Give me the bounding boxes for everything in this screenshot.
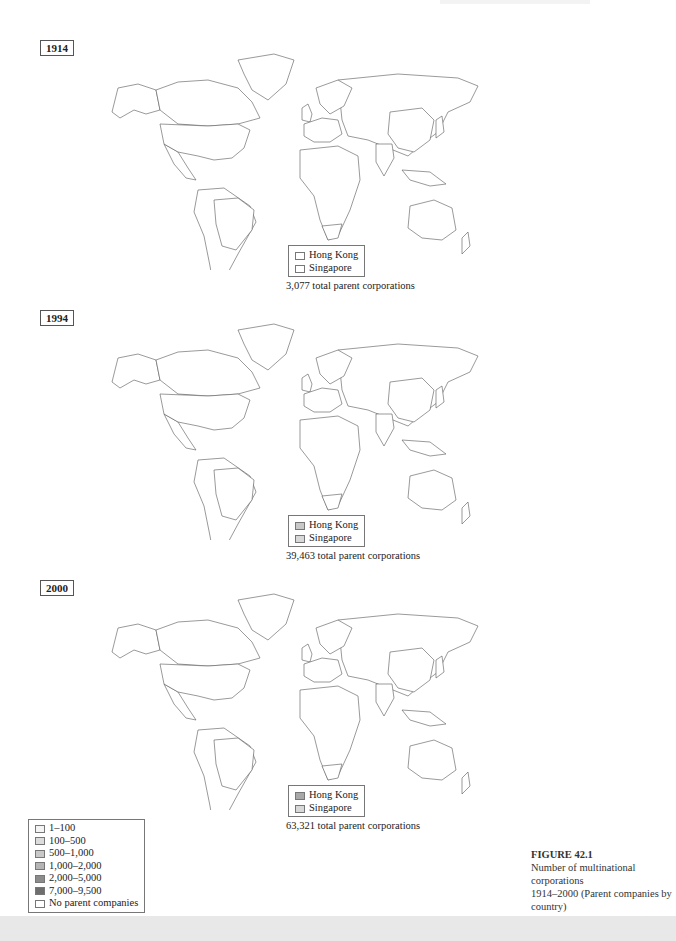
- scan-edge-bottom: [0, 916, 676, 941]
- year-label: 1914: [40, 40, 74, 56]
- total-corporations: 63,321 total parent corporations: [286, 820, 420, 831]
- legend-swatch: [35, 862, 45, 870]
- region-canada: [156, 620, 260, 666]
- region-nz: [462, 502, 470, 524]
- legend-item: 2,000–5,000: [35, 872, 138, 885]
- inset-item: Singapore: [295, 801, 358, 814]
- total-corporations: 39,463 total parent corporations: [286, 550, 420, 561]
- caption-line: Number of multinational corporations: [531, 861, 676, 887]
- region-australia: [408, 470, 456, 510]
- inset-swatch: [295, 252, 305, 260]
- region-alaska: [112, 84, 160, 118]
- region-nz: [462, 772, 470, 794]
- year-label: 2000: [40, 580, 74, 596]
- legend-item: 1–100: [35, 822, 138, 835]
- region-sea: [402, 170, 446, 186]
- region-india: [376, 684, 394, 716]
- city-inset-legend: Hong KongSingapore: [288, 785, 365, 817]
- region-southafrica: [322, 494, 342, 510]
- region-sea: [402, 440, 446, 456]
- region-canada: [156, 80, 260, 126]
- legend-swatch: [35, 837, 45, 845]
- inset-item: Hong Kong: [295, 248, 358, 261]
- region-greenland: [238, 54, 294, 100]
- year-label: 1994: [40, 310, 74, 326]
- legend-item: 100–500: [35, 835, 138, 848]
- map-panel-1914: 1914Hong KongSingapore3,077 total parent…: [28, 40, 468, 295]
- inset-swatch: [295, 522, 305, 530]
- legend-item: 7,000–9,500: [35, 885, 138, 898]
- inset-item: Hong Kong: [295, 518, 358, 531]
- inset-swatch: [295, 535, 305, 543]
- inset-swatch: [295, 265, 305, 273]
- legend-item: 500–1,000: [35, 847, 138, 860]
- region-sea: [402, 710, 446, 726]
- world-map: [28, 580, 498, 810]
- region-alaska: [112, 354, 160, 388]
- legend-swatch: [35, 875, 45, 883]
- region-southafrica: [322, 764, 342, 780]
- figure-number: FIGURE 42.1: [531, 848, 676, 861]
- total-corporations: 3,077 total parent corporations: [286, 280, 415, 291]
- city-inset-legend: Hong KongSingapore: [288, 245, 365, 277]
- legend-item: No parent companies: [35, 897, 138, 910]
- region-uk: [302, 374, 312, 392]
- world-map: [28, 40, 498, 270]
- legend-swatch: [35, 900, 45, 908]
- inset-item: Singapore: [295, 261, 358, 274]
- region-uk: [302, 104, 312, 122]
- inset-swatch: [295, 792, 305, 800]
- region-australia: [408, 200, 456, 240]
- inset-swatch: [295, 805, 305, 813]
- region-alaska: [112, 624, 160, 658]
- inset-item: Hong Kong: [295, 788, 358, 801]
- caption-line: 1914–2000 (Parent companies by country): [531, 887, 676, 913]
- region-southafrica: [322, 224, 342, 240]
- legend-swatch: [35, 850, 45, 858]
- map-panel-2000: 2000Hong KongSingapore63,321 total paren…: [28, 580, 468, 835]
- region-greenland: [238, 324, 294, 370]
- legend-swatch: [35, 825, 45, 833]
- map-panel-1994: 1994Hong KongSingapore39,463 total paren…: [28, 310, 468, 565]
- shading-legend: 1–100 100–500 500–1,000 1,000–2,000 2,00…: [28, 819, 145, 913]
- legend-item: 1,000–2,000: [35, 860, 138, 873]
- region-india: [376, 144, 394, 176]
- world-map: [28, 310, 498, 540]
- region-australia: [408, 740, 456, 780]
- legend-swatch: [35, 887, 45, 895]
- scan-edge: [440, 0, 590, 4]
- region-greenland: [238, 594, 294, 640]
- region-uk: [302, 644, 312, 662]
- region-nz: [462, 232, 470, 254]
- region-canada: [156, 350, 260, 396]
- inset-item: Singapore: [295, 531, 358, 544]
- city-inset-legend: Hong KongSingapore: [288, 515, 365, 547]
- region-india: [376, 414, 394, 446]
